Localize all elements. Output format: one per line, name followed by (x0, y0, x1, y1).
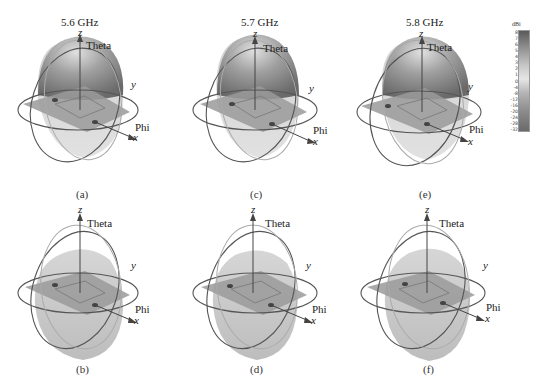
colorbar-tick: 7 (506, 36, 518, 41)
y-axis-label: y (309, 82, 314, 94)
radiation-pattern-3d (345, 195, 515, 375)
colorbar-tick: 8 (506, 30, 518, 35)
radiation-pattern-3d (175, 0, 345, 180)
colorbar-tick: 1 (506, 72, 518, 77)
colorbar-tick: 6 (506, 42, 518, 47)
colorbar-tick: -16 (506, 103, 518, 108)
phi-label: Phi (469, 123, 484, 135)
theta-label: Theta (427, 41, 452, 53)
colorbar-ticks: 8 7 6 5 4 3 2 1 0 -4 -8 -12 -16 -20 -24 … (506, 30, 518, 132)
panel-d: z Theta y Phi x (d) (175, 195, 345, 375)
panel-a: 5.6 GHz z Theta y Phi x (a) (5, 0, 175, 180)
y-axis-label: y (483, 259, 488, 271)
z-axis-label: z (251, 203, 255, 215)
x-axis-label: x (134, 314, 139, 326)
theta-label: Theta (439, 217, 464, 229)
panel-f: z Theta y Phi x (f) (345, 195, 515, 375)
panel-caption: (b) (76, 363, 89, 375)
colorbar-tick: 3 (506, 60, 518, 65)
y-axis-label: y (468, 80, 473, 92)
colorbar-tick: -4 (506, 85, 518, 90)
z-axis-label: z (78, 203, 82, 215)
y-axis-label: y (131, 259, 136, 271)
panel-caption: (f) (423, 363, 434, 375)
theta-label: Theta (263, 42, 288, 54)
x-axis-label: x (133, 131, 138, 143)
panel-b: z Theta y Phi x (b) (5, 195, 175, 375)
panel-c: 5.7 GHz z Theta y Phi x (c) (175, 0, 345, 180)
colorbar (518, 30, 530, 132)
colorbar-tick: -20 (506, 109, 518, 114)
panel-caption: (d) (250, 363, 263, 375)
colorbar-tick: 2 (506, 66, 518, 71)
colorbar-tick: 4 (506, 54, 518, 59)
x-axis-label: x (311, 314, 316, 326)
x-axis-label: x (468, 135, 473, 147)
colorbar-tick: 5 (506, 48, 518, 53)
x-axis-label: x (485, 312, 490, 324)
z-axis-label: z (425, 203, 429, 215)
colorbar-tick: 0 (506, 79, 518, 84)
z-axis-label: z (419, 27, 423, 39)
z-axis-label: z (253, 27, 257, 39)
colorbar-tick: -12 (506, 97, 518, 102)
radiation-pattern-3d (345, 0, 515, 180)
radiation-pattern-3d (175, 195, 345, 375)
y-axis-label: y (131, 78, 136, 90)
colorbar-unit: dBi (512, 21, 521, 27)
colorbar-tick: -28 (506, 121, 518, 126)
x-axis-label: x (313, 135, 318, 147)
theta-label: Theta (86, 39, 111, 51)
colorbar-tick: -32 (506, 127, 518, 132)
radiation-pattern-3d (5, 0, 175, 180)
y-axis-label: y (306, 259, 311, 271)
z-axis-label: z (78, 26, 82, 38)
panel-e: 5.8 GHz z Theta y Phi x (e) (345, 0, 515, 180)
theta-label: Theta (265, 217, 290, 229)
theta-label: Theta (87, 217, 112, 229)
colorbar-tick: -24 (506, 115, 518, 120)
colorbar-tick: -8 (506, 91, 518, 96)
